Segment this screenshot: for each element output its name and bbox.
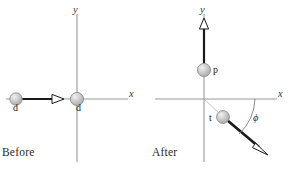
after-proton-velocity-vector <box>199 18 208 63</box>
before-vector-arrowhead <box>52 94 64 103</box>
after-proton-vector-arrowhead <box>199 18 208 29</box>
after-particle-label-proton-p: p <box>213 64 218 75</box>
diagram-svg <box>0 0 289 169</box>
particle-proton-p <box>197 63 210 76</box>
particle-triton-t <box>217 111 230 124</box>
after-triton-velocity-vector <box>227 120 268 155</box>
after-triton-vector-arrowhead <box>252 143 268 155</box>
before-x-axis-label: x <box>129 88 134 99</box>
after-x-axis-label: x <box>278 88 283 99</box>
before-incoming-d-velocity-vector <box>17 94 64 103</box>
after-y-axis-label: y <box>200 4 205 15</box>
figure-canvas: y x d d Before y x p t ϕ After <box>0 0 289 169</box>
phi-angle-label: ϕ <box>253 112 258 123</box>
after-particle-label-triton-t: t <box>209 112 212 123</box>
before-particle-label-target-d: d <box>76 102 81 113</box>
after-triton-vector-shaft <box>227 120 259 147</box>
before-caption: Before <box>2 146 35 158</box>
panel-before <box>6 14 128 162</box>
before-y-axis-label: y <box>73 4 78 15</box>
after-caption: After <box>152 146 177 158</box>
panel-after <box>155 14 277 162</box>
before-particle-label-incoming-d: d <box>13 102 18 113</box>
